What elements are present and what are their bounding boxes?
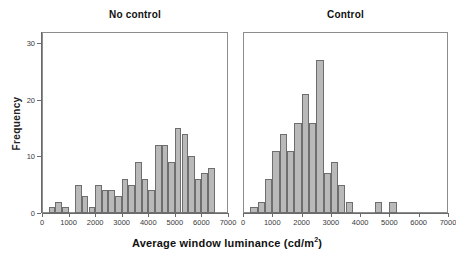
x-axis-no-control: 01000200030004000500060007000 xyxy=(42,213,228,214)
y-tick xyxy=(37,43,41,44)
histogram-bar xyxy=(324,173,331,213)
bar-series-no-control xyxy=(42,32,228,213)
y-tick xyxy=(37,156,41,157)
x-tick-label: 7000 xyxy=(440,218,456,227)
x-tick-label: 0 xyxy=(40,218,44,227)
histogram-bar xyxy=(280,134,287,213)
y-tick-label: 0 xyxy=(31,209,35,218)
x-tick xyxy=(228,213,229,217)
x-axis-label-prefix: Average window luminance (cd/m xyxy=(132,237,314,249)
x-tick-label: 2000 xyxy=(87,218,104,227)
histogram-bar xyxy=(122,179,129,213)
histogram-bar xyxy=(142,179,149,213)
x-tick-label: 5000 xyxy=(167,218,184,227)
x-tick xyxy=(389,213,390,217)
x-tick-label: 4000 xyxy=(140,218,157,227)
x-tick-label: 4000 xyxy=(352,218,369,227)
x-tick-label: 6000 xyxy=(193,218,210,227)
y-axis-label: Frequency xyxy=(11,64,22,184)
y-tick xyxy=(37,213,41,214)
histogram-bar xyxy=(375,202,382,213)
histogram-bar xyxy=(168,162,175,213)
x-axis-label: Average window luminance (cd/m2) xyxy=(0,236,454,249)
histogram-bar xyxy=(82,196,89,213)
histogram-bar xyxy=(182,134,189,213)
x-tick-label: 7000 xyxy=(220,218,237,227)
histogram-bar xyxy=(331,162,338,213)
x-tick xyxy=(148,213,149,217)
histogram-bar xyxy=(155,145,162,213)
histogram-bar xyxy=(265,179,272,213)
x-tick xyxy=(331,213,332,217)
histogram-bar xyxy=(272,151,279,213)
histogram-bar xyxy=(389,202,396,213)
x-tick xyxy=(360,213,361,217)
histogram-bar xyxy=(346,202,353,213)
x-tick-label: 5000 xyxy=(381,218,398,227)
plot-area-control xyxy=(243,32,448,213)
x-tick xyxy=(448,213,449,217)
histogram-bar xyxy=(108,190,115,213)
histogram-bar xyxy=(195,179,202,213)
x-tick xyxy=(69,213,70,217)
histogram-bar xyxy=(309,123,316,214)
x-tick xyxy=(419,213,420,217)
y-tick-label: 10 xyxy=(27,152,35,161)
x-tick-label: 2000 xyxy=(293,218,310,227)
y-tick-label: 30 xyxy=(27,39,35,48)
x-tick-label: 0 xyxy=(241,218,245,227)
x-tick xyxy=(201,213,202,217)
x-axis-control: 01000200030004000500060007000 xyxy=(243,213,448,214)
x-tick-label: 6000 xyxy=(410,218,427,227)
x-axis-label-suffix: ) xyxy=(318,237,322,249)
histogram-bar xyxy=(148,190,155,213)
histogram-bar xyxy=(287,151,294,213)
x-tick xyxy=(272,213,273,217)
x-tick-label: 3000 xyxy=(113,218,130,227)
x-tick-label: 3000 xyxy=(323,218,340,227)
y-tick xyxy=(37,100,41,101)
histogram-bar xyxy=(188,156,195,213)
histogram-bar xyxy=(55,202,62,213)
histogram-bar xyxy=(302,94,309,213)
x-tick-label: 1000 xyxy=(264,218,281,227)
histogram-bar xyxy=(294,123,301,214)
histogram-bar xyxy=(175,128,182,213)
x-tick xyxy=(302,213,303,217)
panel-control: Control xyxy=(243,32,448,213)
panel-no-control: No control xyxy=(42,32,228,213)
x-tick xyxy=(175,213,176,217)
histogram-bar xyxy=(128,185,135,213)
histogram-bar xyxy=(95,185,102,213)
x-tick-label: 1000 xyxy=(60,218,77,227)
x-tick xyxy=(122,213,123,217)
y-tick-label: 20 xyxy=(27,95,35,104)
histogram-bar xyxy=(162,145,169,213)
histogram-bar xyxy=(115,196,122,213)
histogram-bar xyxy=(208,168,215,213)
histogram-bar xyxy=(316,60,323,213)
histogram-bar xyxy=(135,162,142,213)
histogram-bar xyxy=(75,185,82,213)
x-tick xyxy=(42,213,43,217)
histogram-bar xyxy=(338,185,345,213)
x-tick xyxy=(95,213,96,217)
histogram-bar xyxy=(201,173,208,213)
histogram-bar xyxy=(102,190,109,213)
panel-title-control: Control xyxy=(243,9,448,20)
plot-area-no-control xyxy=(42,32,228,213)
panel-title-no-control: No control xyxy=(42,9,228,20)
bar-series-control xyxy=(243,32,448,213)
x-tick xyxy=(243,213,244,217)
histogram-bar xyxy=(258,202,265,213)
